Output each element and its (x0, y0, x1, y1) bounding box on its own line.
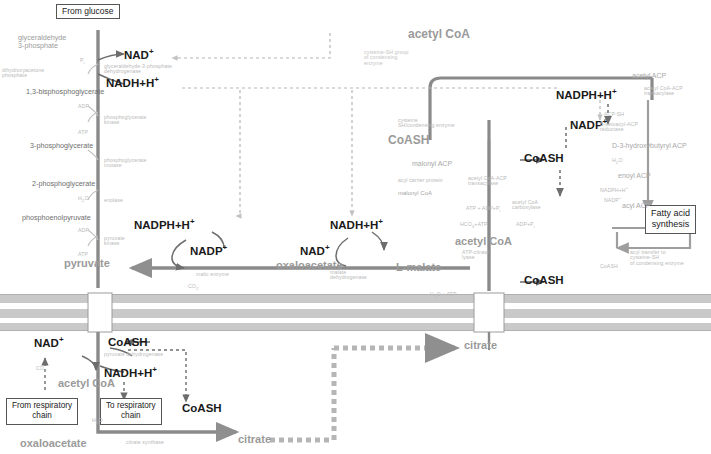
label-enoyl-acp: enoyl ACP (618, 172, 651, 179)
box-to-respiratory-chain-label: To respiratorychain (106, 401, 156, 420)
box-fatty-acid-synthesis[interactable]: Fatty acidsynthesis (645, 205, 696, 234)
label-3-phosphoglycerate: 3-phosphoglycerate (30, 142, 93, 150)
label-malonyl-acp: malonyl ACP (412, 160, 452, 167)
label-palmitoyl-thioesterase: acyl transfer tocysteine-SHof condensing… (630, 250, 684, 266)
label-coash-top-grey: CoASH (388, 134, 429, 147)
label-nadph-h-faint: NADPH+H+ (600, 186, 628, 193)
label-d-3-hydroxybutyryl-acp: D-3-hydroxybutyryl ACP (612, 142, 687, 149)
label-atp-2: ATP (78, 252, 88, 257)
label-oxaloacetate-bottom: oxaloacetate (20, 438, 87, 450)
label-coash-bottom: CoASH (108, 336, 148, 348)
label-pyruvate: pyruvate (64, 258, 110, 270)
label-malate-dehydrogenase: malatedehydrogenase (330, 270, 367, 281)
label-acetyl-coa-top: acetyl CoA (408, 28, 470, 41)
label-citrate-bottom: citrate (238, 434, 271, 446)
malate-dh-loop (336, 232, 384, 266)
label-h2o-bottom: H2O (92, 418, 103, 426)
label-acetyl-acp: acetyl ACP (632, 72, 666, 79)
label-glyceraldehyde-3-phosphate: glyceraldehyde3-phosphate (18, 34, 66, 49)
label-beta-ketoacyl-synthase: acetyl CoA-ACPtransacylase (644, 86, 683, 97)
label-nadph-h-mid: NADPH+H+ (134, 218, 195, 231)
label-co2-2: CO2 (36, 366, 47, 374)
label-atp-adp-pi: ATP + ADP+Pi (466, 206, 501, 214)
label-2-phosphoglycerate: 2-phosphoglycerate (32, 180, 95, 188)
box-fatty-acid-synthesis-label: Fatty acidsynthesis (651, 208, 690, 229)
label-pk: pyruvatekinase (104, 236, 125, 247)
box-from-respiratory-chain-label: From respiratorychain (12, 401, 72, 420)
box-from-glucose[interactable]: From glucose (56, 4, 120, 19)
label-phosphoenolpyruvate: phosphoenolpyruvate (22, 214, 91, 222)
label-coash-mid-right: CoASH (524, 152, 564, 164)
label-nad-plus-mid: NAD+ (300, 244, 330, 257)
label-pgk: phosphoglyceratekinase (104, 115, 147, 126)
label-h2o-1: H2O (78, 196, 89, 204)
label-adp-pi-2: ADP+Pi (516, 222, 535, 230)
label-co2-1: CO2 (188, 284, 199, 292)
label-pyruvate-dehydrogenase: pyruvate dehydrogenase (104, 352, 163, 357)
label-coash-lower-right: CoASH (524, 274, 564, 286)
label-nadp-faint: NADP+ (604, 196, 621, 203)
label-citrate-synthase: citrate synthase (126, 440, 164, 445)
label-1-3-bisphosphoglycerate: 1,3-bisphosphoglycerate (26, 88, 104, 96)
label-atp-1: ATP (78, 130, 88, 135)
label-nad-plus-bottom: NAD+ (34, 336, 64, 349)
label-citrate-mid: citrate (464, 340, 497, 352)
box-from-glucose-label: From glucose (62, 6, 114, 16)
label-acyl-acp: acyl ACP (622, 202, 650, 209)
label-acetyl-coa-mid: acetyl CoA (455, 236, 512, 248)
label-l-malate: L-malate (396, 262, 441, 274)
label-h2o-faint: H2O (612, 158, 623, 166)
label-acetyl-coa-bottom: acetyl CoA (58, 378, 115, 390)
citrate-export-arrow (270, 348, 455, 440)
label-pi-1: Pi (80, 58, 85, 66)
label-malonyl-coa: malonyl CoA (398, 190, 432, 196)
label-acetyl-coa-carboxylase: acetyl CoAcarboxylase (512, 200, 541, 211)
label-acp-acetyl-transferase: cysteineSH/condensing enzyme (398, 118, 455, 129)
label-adp-2: ADP (78, 228, 89, 233)
label-nadph-h-right: NADPH+H+ (556, 88, 617, 101)
label-acetyl-coa-acp-transacylase: acetyl CoA-ACPtransacylase (468, 176, 507, 187)
label-nadh-h-mid: NADH+H+ (330, 218, 383, 231)
label-atp-citrate-lyase: ATP-citratelyase (462, 250, 489, 261)
label-coash-bottom-2: CoASH (182, 402, 222, 414)
box-from-respiratory-chain[interactable]: From respiratorychain (6, 398, 78, 425)
label-nadh-h-top: NADH+H+ (106, 76, 159, 89)
label-malic-enzyme: malic enzyme (196, 272, 229, 277)
label-nadp-plus-mid: NADP+ (190, 244, 227, 257)
label-condensing-enzyme: cysteine-SH groupof condensingenzyme (364, 50, 408, 66)
label-acp-sh: ACP-SH (604, 112, 624, 117)
label-adp-1: ADP (78, 104, 89, 109)
label-h2o-atp: H2O + ATP (430, 292, 456, 300)
label-dihydroxyacetone-phosphate: dihydroxyacetonephosphate (2, 68, 44, 79)
label-nad-plus-top: NAD+ (124, 48, 154, 61)
membrane-bands (0, 294, 711, 331)
box-to-respiratory-chain[interactable]: To respiratorychain (100, 398, 162, 425)
label-acp-malonyl-transferase: acyl carrier protein (398, 178, 443, 183)
label-pgm: phosphoglyceratemutase (104, 158, 147, 169)
label-enolase: enolase (104, 198, 123, 203)
label-hco3-atp: HCO3+ATP (460, 222, 487, 230)
label-coash-faint: CoASH (600, 264, 618, 269)
label-beta-ketoacyl-reductase: B-ketoacyl-ACPreductase (600, 122, 638, 133)
diagram-canvas: From glucose From respiratorychain To re… (0, 0, 711, 454)
label-gapdh: glyceraldehyde-3-phosphatedehydrogenase (104, 64, 172, 75)
